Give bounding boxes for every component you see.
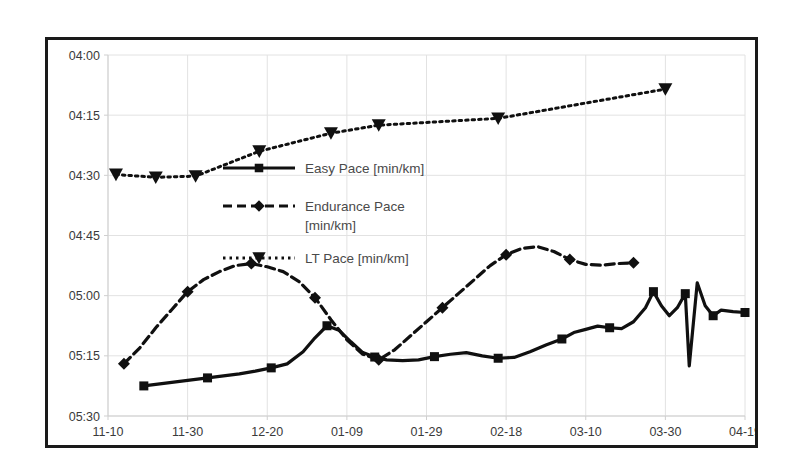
x-axis-tick-label: 01-29	[411, 425, 443, 439]
y-axis-tick-label: 04:00	[69, 49, 100, 63]
data-point-marker-square	[203, 373, 212, 382]
x-axis-tick-labels: 11-1011-3012-2001-0901-2902-1803-1003-30…	[92, 416, 755, 439]
data-point-marker-square	[741, 308, 750, 317]
data-point-marker-square	[430, 352, 439, 361]
y-axis-tick-label: 04:45	[69, 229, 100, 243]
data-point-marker-square	[255, 164, 264, 173]
gridlines	[108, 55, 745, 416]
data-point-marker-square	[494, 354, 503, 363]
data-point-marker-diamond	[628, 257, 640, 269]
data-point-marker-square	[267, 363, 276, 372]
legend-label: LT Pace [min/km]	[305, 251, 409, 266]
legend-label: Endurance Pace	[305, 199, 405, 214]
x-axis-tick-label: 01-09	[331, 425, 363, 439]
data-point-marker-diamond	[253, 200, 264, 211]
data-point-marker-square	[649, 287, 658, 296]
y-axis-tick-label: 05:30	[69, 410, 100, 424]
legend-label: Easy Pace [min/km]	[305, 161, 424, 176]
x-axis-tick-label: 11-10	[92, 425, 123, 439]
x-axis-tick-label: 03-30	[649, 425, 681, 439]
y-axis-tick-label: 05:15	[69, 349, 100, 363]
chart-legend: Easy Pace [min/km]Endurance Pace[min/km]…	[223, 161, 424, 266]
x-axis-tick-label: 03-10	[570, 425, 602, 439]
series-line	[144, 283, 745, 386]
pace-trend-line-chart: 04:0004:1504:3004:4505:0005:1505:30 11-1…	[48, 40, 755, 445]
data-point-marker-square	[681, 289, 690, 298]
legend-item-1[interactable]: Easy Pace [min/km]	[223, 161, 424, 176]
chart-border-frame: 04:0004:1504:3004:4505:0005:1505:30 11-1…	[45, 37, 758, 448]
data-point-marker-square	[605, 323, 614, 332]
series-1	[139, 283, 749, 391]
y-axis-tick-labels: 04:0004:1504:3004:4505:0005:1505:30	[69, 49, 108, 424]
data-point-marker-square	[709, 311, 718, 320]
x-axis-tick-label: 12-20	[251, 425, 283, 439]
y-axis-tick-label: 04:15	[69, 109, 100, 123]
y-axis-tick-label: 05:00	[69, 289, 100, 303]
data-point-marker-square	[557, 334, 566, 343]
x-axis-tick-label: 02-18	[490, 425, 522, 439]
x-axis-tick-label: 04-19	[729, 425, 755, 439]
data-series-group	[109, 83, 750, 390]
data-point-marker-square	[139, 381, 148, 390]
legend-label-line2: [min/km]	[305, 218, 356, 233]
y-axis-tick-label: 04:30	[69, 169, 100, 183]
data-point-marker-diamond	[564, 254, 576, 266]
x-axis-tick-label: 11-30	[172, 425, 203, 439]
legend-item-2[interactable]: Endurance Pace[min/km]	[223, 199, 405, 233]
data-point-marker-square	[322, 321, 331, 330]
